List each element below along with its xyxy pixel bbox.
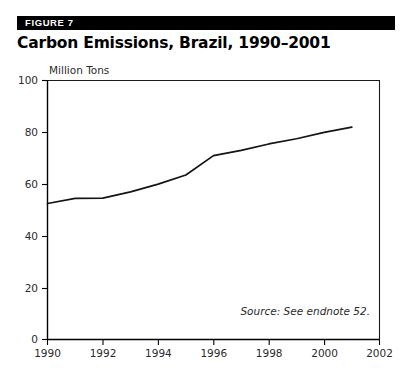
y-axis-unit-label: Million Tons [49,64,109,76]
x-tick-label-2000: 2000 [311,347,338,359]
chart-frame [48,80,381,340]
y-axis-tick-labels: 100 80 60 40 20 0 [18,74,38,345]
x-tick-label-2002: 2002 [366,347,393,359]
series-line-carbon-emissions [48,127,352,203]
x-tick-label-1992: 1992 [90,347,117,359]
x-tick-label-1998: 1998 [256,347,283,359]
x-tick-label-1990: 1990 [34,347,61,359]
y-tick-label-40: 40 [25,230,38,242]
figure-page: FIGURE 7 Carbon Emissions, Brazil, 1990–… [0,0,412,373]
chart-container: 100 80 60 40 20 0 Million Tons [0,0,412,373]
y-tick-label-80: 80 [25,126,38,138]
line-chart: 100 80 60 40 20 0 Million Tons [0,0,412,373]
x-axis-ticks [48,340,380,345]
y-tick-label-20: 20 [25,282,38,294]
y-tick-label-0: 0 [31,333,38,345]
y-tick-label-100: 100 [18,74,38,86]
y-axis-ticks [42,81,48,340]
x-tick-label-1996: 1996 [200,347,227,359]
y-tick-label-60: 60 [25,178,38,190]
x-axis-tick-labels: 1990 1992 1994 1996 1998 2000 2002 [34,347,393,359]
source-note: Source: See endnote 52. [240,305,370,317]
x-tick-label-1994: 1994 [145,347,172,359]
